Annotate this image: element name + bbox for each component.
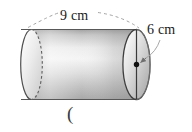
center-dot-marker xyxy=(134,62,139,67)
length-label: 9 cm xyxy=(60,9,88,23)
length-arc-left-segment xyxy=(28,13,60,28)
cylinder-drawing xyxy=(0,0,192,132)
length-arc-right-segment xyxy=(98,13,139,29)
diameter-label: 6 cm xyxy=(147,23,175,37)
cylinder-left-face xyxy=(21,30,43,100)
cylinder-figure: 9 cm 6 cm ( xyxy=(0,0,192,132)
cylinder-right-face xyxy=(123,30,150,100)
stray-parenthesis-text: ( xyxy=(67,104,73,123)
